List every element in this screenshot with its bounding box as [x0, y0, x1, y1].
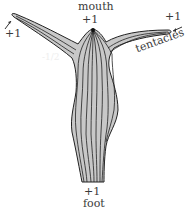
foot-label: foot	[83, 198, 105, 208]
hydra-diagram	[0, 0, 185, 208]
mouth-point	[91, 28, 95, 32]
right-tentacle-value: +1	[165, 11, 181, 22]
faint-center-label: -1/2	[42, 52, 60, 63]
left-tentacle-value: +1	[5, 28, 21, 39]
mouth-label: mouth	[78, 1, 114, 12]
foot-value: +1	[84, 186, 100, 197]
mouth-value: +1	[82, 14, 98, 25]
